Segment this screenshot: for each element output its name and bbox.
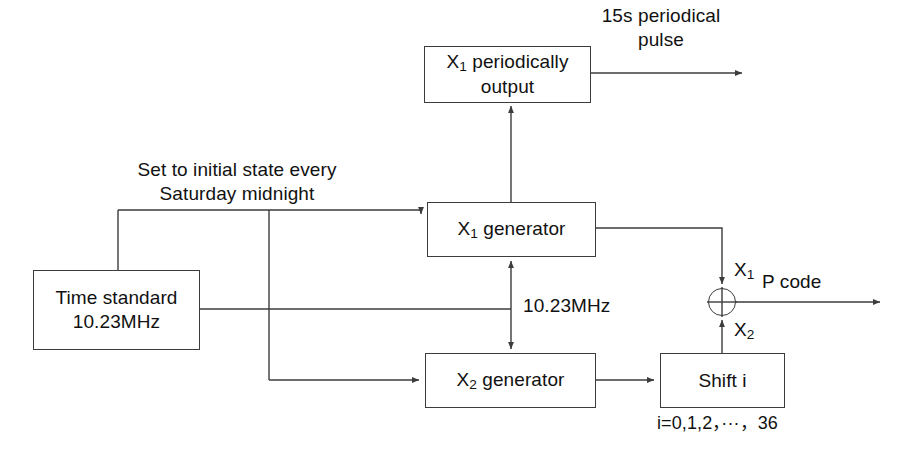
x1-periodically-output-label: X1 periodicallyoutput bbox=[440, 50, 574, 99]
periodical-pulse-label: 15s periodical pulse bbox=[571, 4, 751, 53]
shift-i-label: Shift i bbox=[692, 369, 752, 393]
x1-periodically-output-box[interactable]: X1 periodicallyoutput bbox=[424, 46, 591, 103]
weekly-reset-label: Set to initial state every Saturday midn… bbox=[113, 158, 361, 207]
clock-rate-label: 10.23MHz bbox=[523, 294, 643, 318]
x1-gen-to-xor-wire bbox=[596, 228, 722, 284]
shift-index-range-label: i=0,1,2，···，36 bbox=[657, 412, 842, 435]
x2-generator-box[interactable]: X2 generator bbox=[425, 353, 596, 408]
time-standard-label: Time standard10.23MHz bbox=[49, 286, 183, 334]
time-standard-box[interactable]: Time standard10.23MHz bbox=[33, 270, 200, 350]
diagram-canvas: X1 periodicallyoutput X1 generator Time … bbox=[0, 0, 909, 457]
x1-generator-label: X1 generator bbox=[451, 217, 571, 242]
x1-generator-box[interactable]: X1 generator bbox=[427, 202, 596, 257]
xor-summing-junction[interactable] bbox=[708, 288, 736, 316]
x2-signal-label: X2 bbox=[734, 318, 784, 344]
shift-i-box[interactable]: Shift i bbox=[660, 353, 785, 408]
x1-signal-label: X1 bbox=[734, 258, 784, 284]
x2-generator-label: X2 generator bbox=[450, 368, 570, 393]
